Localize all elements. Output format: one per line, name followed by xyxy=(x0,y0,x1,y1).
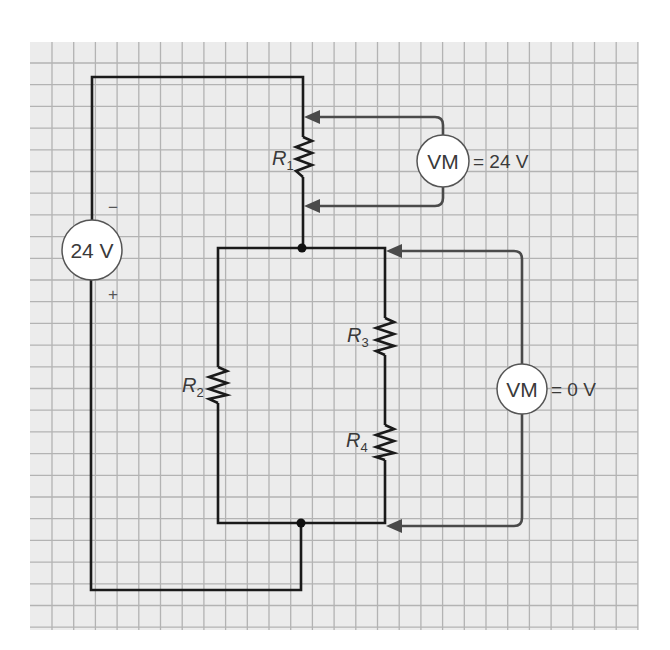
source-label: 24 V xyxy=(70,239,113,262)
circuit-diagram: 24 V − + R1 R2 R3 R4 VM = 24 V VM = 0 V xyxy=(0,0,670,650)
voltmeter-2-reading: = 0 V xyxy=(551,379,596,400)
source-plus-sign: + xyxy=(108,285,118,304)
voltmeter-1-label: VM xyxy=(427,150,459,173)
junction-bottom xyxy=(297,519,306,528)
junction-top xyxy=(298,244,307,253)
source-minus-sign: − xyxy=(108,198,118,217)
voltmeter-2-label: VM xyxy=(506,378,538,401)
graph-paper xyxy=(30,42,638,630)
voltmeter-1-reading: = 24 V xyxy=(473,151,529,172)
